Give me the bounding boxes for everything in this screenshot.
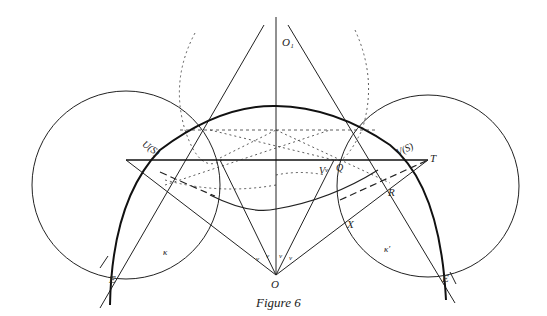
dotted-diag-4 [210,130,334,160]
label-E-left: E [108,273,116,285]
figure-caption: Figure 6 [255,295,301,310]
dotted-diag-3 [165,130,330,185]
label-V-S: V(S) [394,140,416,159]
angle-marks: ν ν ν ν ν [256,166,329,263]
thick-arc [110,106,446,305]
label-R: R [387,186,395,198]
line-U-O [126,160,276,275]
dotted-diag-1 [220,130,276,158]
label-O: O [271,278,279,290]
svg-text:ν: ν [279,252,283,260]
left-circle [32,91,220,279]
label-Q: Q [336,162,344,173]
geometry-figure: ν ν ν ν ν O₁ O E E U(S) V(S) T Q R X V κ… [0,0,547,316]
label-E-right: E [441,272,449,284]
label-T: T [430,152,437,164]
label-kappa-prime: κ′ [384,244,391,254]
dotted-diag-2 [276,130,390,183]
dotted-arc-left [179,33,222,164]
tick-E-left [100,256,108,268]
line-O1-right [288,25,455,303]
label-X: X [346,218,355,230]
label-O1: O₁ [282,36,294,48]
svg-text:ν: ν [266,252,270,260]
dotted-arc-right [335,30,369,161]
right-circle [337,95,519,277]
label-U-S: U(S) [140,138,163,159]
label-kappa: κ [163,247,168,257]
dotted-lower-arc-right [276,173,325,176]
line-Q-O [276,160,334,275]
svg-text:ν: ν [289,254,293,262]
